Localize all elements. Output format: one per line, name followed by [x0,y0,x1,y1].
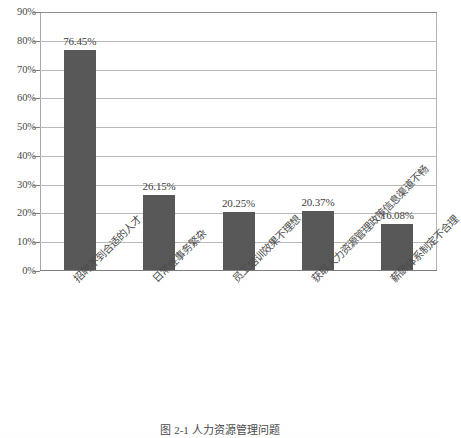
bar-value-label: 76.45% [40,36,120,47]
y-tick-label: 40% [0,151,36,162]
y-tick-label: 70% [0,65,36,76]
y-tick-mark [33,185,40,186]
gridline [40,70,437,71]
y-tick-mark [33,213,40,214]
y-tick-label: 60% [0,93,36,104]
y-tick-label: 80% [0,36,36,47]
y-tick-label: 30% [0,180,36,191]
y-tick-mark [33,70,40,71]
figure-caption: 图 2-1 人力资源管理问题 [0,424,440,436]
y-tick-mark [33,271,40,272]
gridline [40,12,437,13]
y-tick-mark [33,98,40,99]
gridline [40,98,437,99]
plot-area [40,12,437,271]
gridline [40,185,437,186]
bar-value-label: 26.15% [119,181,199,192]
bar-value-label: 20.25% [199,198,279,209]
y-tick-mark [33,127,40,128]
y-tick-label: 10% [0,237,36,248]
y-tick-label: 50% [0,122,36,133]
y-tick-mark [33,156,40,157]
y-tick-label: 20% [0,208,36,219]
bar-value-label: 20.37% [278,197,358,208]
y-tick-label: 0% [0,266,36,277]
y-tick-mark [33,242,40,243]
y-tick-label: 90% [0,7,36,18]
gridline [40,156,437,157]
gridline [40,127,437,128]
plot-border-left [40,12,41,271]
y-tick-mark [33,12,40,13]
bar [64,50,96,270]
